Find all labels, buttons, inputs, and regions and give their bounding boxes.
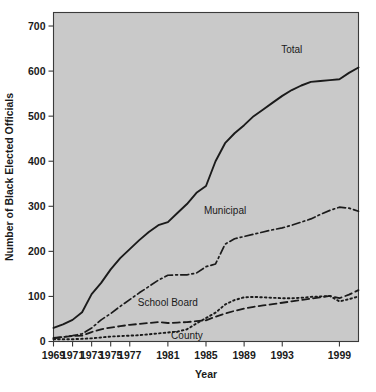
x-axis-tick-label: 1993 [271, 349, 295, 361]
y-axis-tick-label: 200 [28, 245, 46, 257]
x-axis-tick-label: 1985 [194, 349, 218, 361]
y-axis-tick-label: 100 [28, 290, 46, 302]
y-axis-tick-label: 400 [28, 155, 46, 167]
x-axis-tick-label: 1977 [118, 349, 142, 361]
series-label-school-board: School Board [138, 297, 198, 308]
line-chart: 0100200300400500600700196919711973197519… [0, 0, 376, 392]
x-axis-tick-label: 1989 [232, 349, 256, 361]
x-axis-tick-label: 1981 [156, 349, 180, 361]
x-axis-title: Year [195, 368, 217, 380]
series-label-total: Total [281, 44, 302, 55]
series-label-county: County [171, 330, 203, 341]
y-axis-title: Number of Black Elected Officials [3, 93, 15, 261]
plot-area-background [54, 13, 359, 342]
series-label-municipal: Municipal [204, 205, 246, 216]
x-axis-tick-label: 1999 [328, 349, 352, 361]
y-axis-tick-label: 600 [28, 65, 46, 77]
y-axis-tick-label: 300 [28, 200, 46, 212]
chart-container: 0100200300400500600700196919711973197519… [0, 0, 376, 392]
y-axis-tick-label: 700 [28, 20, 46, 32]
y-axis-tick-label: 500 [28, 110, 46, 122]
y-axis-tick-label: 0 [40, 335, 46, 347]
